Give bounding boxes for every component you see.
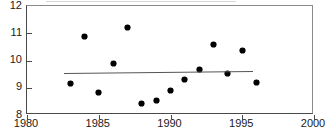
x-tick-label: 1995 xyxy=(229,118,253,129)
data-point xyxy=(125,25,130,30)
y-tick xyxy=(27,61,32,62)
data-point xyxy=(240,48,245,53)
x-tick xyxy=(99,115,100,120)
x-tick xyxy=(314,115,315,120)
x-tick-label: 1990 xyxy=(157,118,181,129)
data-point xyxy=(111,61,116,66)
data-point xyxy=(68,81,73,86)
data-point xyxy=(254,80,259,85)
x-tick xyxy=(242,115,243,120)
data-point xyxy=(96,90,101,95)
data-point xyxy=(168,88,173,93)
data-point xyxy=(154,98,159,103)
x-tick-label: 1985 xyxy=(86,118,110,129)
data-point xyxy=(182,77,187,82)
y-tick xyxy=(27,88,32,89)
data-point xyxy=(139,101,144,106)
x-tick xyxy=(27,115,28,120)
scatter-chart: 89101112 19801985199019952000 xyxy=(0,0,326,134)
x-tick-label: 2000 xyxy=(301,118,325,129)
x-tick xyxy=(171,115,172,120)
data-point xyxy=(82,34,87,39)
plot-area xyxy=(26,5,313,114)
x-tick-label: 1980 xyxy=(14,118,38,129)
data-point xyxy=(211,42,216,47)
y-tick xyxy=(27,33,32,34)
